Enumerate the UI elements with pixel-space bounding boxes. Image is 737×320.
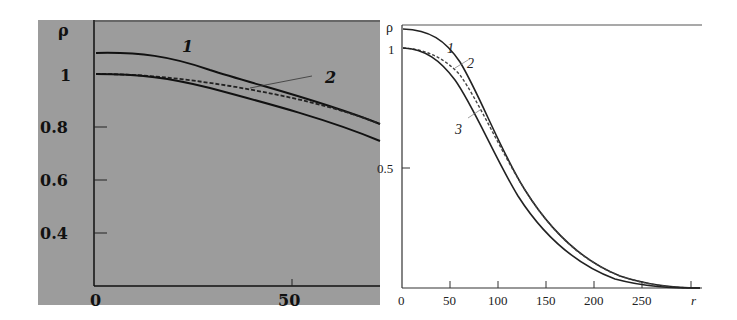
left-xtick-50: 50: [278, 291, 300, 310]
right-xtick-250: 250: [632, 293, 652, 308]
right-curve-label-2: 2: [467, 56, 474, 71]
right-xtick-200: 200: [584, 293, 604, 308]
left-ytick-0.6: 0.6: [40, 171, 68, 190]
charts-canvas: ρ 1 0.8 0.6 0.4 0 50 1 2 ρ 1 0.5 0 50 10…: [0, 0, 737, 320]
right-xtick-100: 100: [488, 293, 508, 308]
right-xtick-50: 50: [443, 293, 456, 308]
right-curve-3: [403, 48, 700, 288]
right-curve-label-3: 3: [454, 122, 462, 137]
left-ytick-1: 1: [60, 66, 71, 85]
right-ylabel: ρ: [386, 20, 393, 35]
left-curve-2-dashed: [96, 74, 380, 124]
right-xtick-150: 150: [536, 293, 556, 308]
right-chart: ρ 1 0.5 0 50 100 150 200 250 r 1 2 3: [377, 20, 702, 308]
right-ytick-0.5: 0.5: [377, 161, 393, 176]
left-chart: ρ 1 0.8 0.6 0.4 0 50 1 2: [40, 20, 380, 310]
right-xlabel: r: [691, 293, 697, 308]
left-curve-3: [96, 74, 380, 141]
left-xtick-0: 0: [90, 291, 101, 310]
left-ytick-0.4: 0.4: [40, 224, 68, 243]
right-xtick-0: 0: [398, 293, 405, 308]
right-curve-2-dashed: [403, 48, 700, 288]
left-curve-label-2: 2: [324, 68, 336, 87]
left-label-2-leader: [250, 76, 312, 88]
right-ytick-1: 1: [388, 42, 395, 57]
left-curve-label-1: 1: [182, 37, 193, 56]
left-ytick-0.8: 0.8: [40, 118, 68, 137]
left-ylabel: ρ: [58, 21, 69, 40]
left-curve-1: [96, 53, 380, 124]
right-curve-label-1: 1: [447, 41, 454, 56]
right-curve-1: [403, 29, 700, 288]
